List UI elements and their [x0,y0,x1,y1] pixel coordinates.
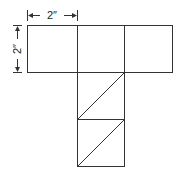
diagonal-1 [78,73,125,120]
top-row-squares [28,26,173,73]
arrow-right-icon [72,13,77,18]
arrow-down-icon [15,67,20,72]
width-label: 2″ [47,9,57,21]
arrow-left-icon [28,13,33,18]
height-label: 2″ [11,44,23,54]
cube-net-diagram: 2″ 2″ [0,0,181,177]
diagonal-2 [78,120,125,167]
arrow-up-icon [15,26,20,31]
